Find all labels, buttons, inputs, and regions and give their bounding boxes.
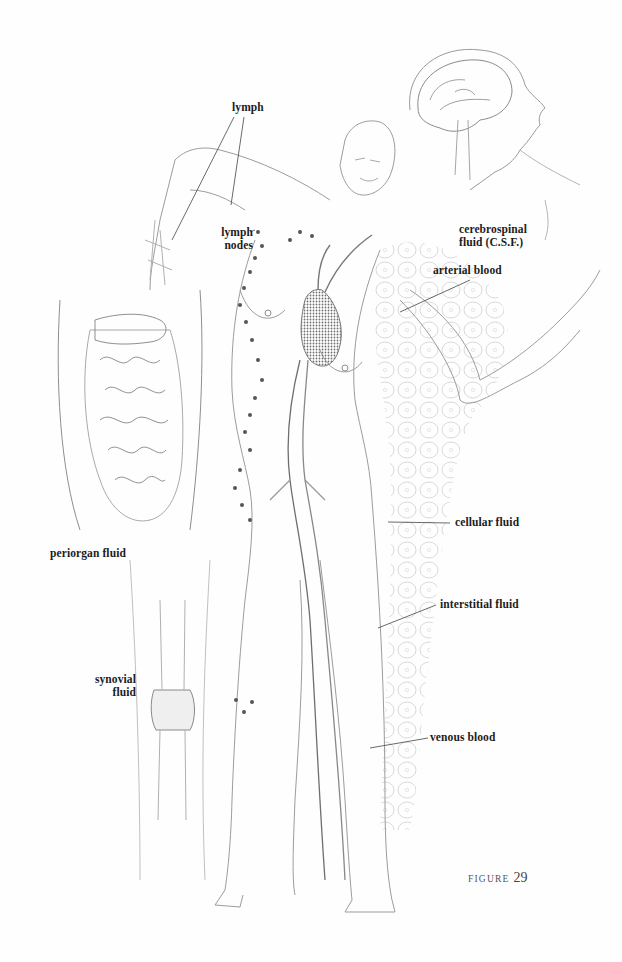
label-cellular-fluid: cellular fluid (455, 516, 519, 529)
label-synovial-line2: fluid (70, 686, 136, 699)
label-lymph-nodes-line1: lymph (193, 226, 253, 239)
figure-caption-word: Figure (468, 874, 510, 884)
head-with-brain-drawing (410, 49, 580, 240)
label-arterial-blood: arterial blood (433, 264, 502, 277)
label-csf-line1: cerebrospinal (459, 223, 527, 236)
label-periorgan-fluid: periorgan fluid (50, 547, 126, 560)
anatomical-illustration (0, 0, 622, 962)
label-lymph: lymph (232, 101, 264, 114)
label-interstitial-fluid: interstitial fluid (440, 598, 519, 611)
knee-joint-drawing (130, 560, 210, 880)
figure-caption: Figure29 (468, 868, 528, 886)
label-csf-line2: fluid (C.S.F.) (459, 236, 527, 249)
intestines-drawing (58, 290, 202, 530)
label-cerebrospinal-fluid: cerebrospinal fluid (C.S.F.) (459, 223, 527, 249)
label-venous-blood: venous blood (430, 731, 495, 744)
heart-drawing (301, 235, 372, 366)
blood-vessels (270, 360, 345, 880)
figure-number: 29 (514, 870, 528, 885)
label-lymph-nodes: lymph nodes (193, 226, 253, 252)
label-synovial-fluid: synovial fluid (70, 673, 136, 699)
label-lymph-nodes-line2: nodes (193, 239, 253, 252)
label-synovial-line1: synovial (70, 673, 136, 686)
book-page: lymph lymph nodes cerebrospinal fluid (C… (0, 0, 622, 962)
